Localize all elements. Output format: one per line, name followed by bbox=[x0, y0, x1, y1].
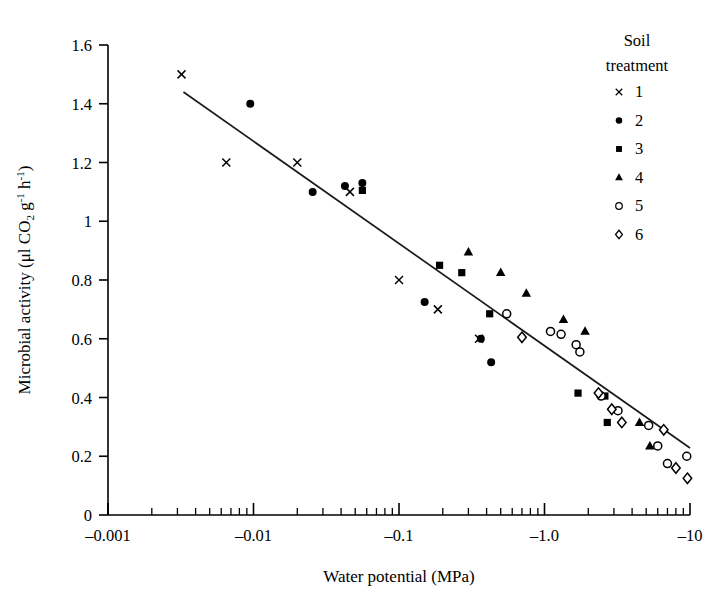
filled-square-icon bbox=[574, 389, 581, 396]
data-point-filled-square bbox=[574, 389, 581, 396]
data-point-filled-square bbox=[604, 419, 611, 426]
filled-square-icon bbox=[616, 146, 622, 152]
data-point-filled-circle bbox=[358, 179, 366, 187]
y-tick-label: 0.8 bbox=[71, 271, 92, 290]
data-point-filled-circle bbox=[616, 117, 623, 124]
data-point-open-circle bbox=[663, 460, 671, 468]
filled-circle-icon bbox=[358, 179, 366, 187]
data-point-filled-square bbox=[436, 262, 443, 269]
x-tick-label: –0.01 bbox=[234, 526, 272, 545]
scatter-plot-figure: 00.20.40.60.811.21.41.6 –0.001–0.01–0.1–… bbox=[0, 0, 718, 606]
data-point-filled-circle bbox=[477, 335, 485, 343]
x-tick-label: –0.1 bbox=[384, 526, 414, 545]
x-axis-title: Water potential (MPa) bbox=[323, 567, 475, 586]
legend-item-label: 1 bbox=[635, 82, 643, 101]
filled-square-icon bbox=[486, 310, 493, 317]
open-circle-icon bbox=[645, 421, 653, 429]
data-point-filled-circle bbox=[421, 298, 429, 306]
filled-circle-icon bbox=[309, 188, 317, 196]
open-circle-icon bbox=[616, 203, 623, 210]
data-point-filled-circle bbox=[309, 188, 317, 196]
open-circle-icon bbox=[663, 460, 671, 468]
data-point-open-circle bbox=[503, 310, 511, 318]
open-circle-icon bbox=[683, 452, 691, 460]
open-circle-icon bbox=[547, 327, 555, 335]
y-tick-label: 0 bbox=[84, 506, 92, 525]
y-tick-label: 0.4 bbox=[71, 389, 92, 408]
x-tick-label: –1.0 bbox=[529, 526, 559, 545]
y-axis-title-sup-g: -1 bbox=[14, 193, 26, 202]
y-tick-label: 0.2 bbox=[71, 447, 92, 466]
filled-circle-icon bbox=[246, 100, 254, 108]
y-axis-title-mid2: h bbox=[15, 180, 34, 193]
legend-item-label: 2 bbox=[635, 111, 643, 130]
filled-circle-icon bbox=[477, 335, 485, 343]
y-tick-label: 1.2 bbox=[71, 154, 92, 173]
y-tick-label: 1.6 bbox=[71, 36, 92, 55]
filled-circle-icon bbox=[616, 117, 623, 124]
data-point-open-circle bbox=[547, 327, 555, 335]
y-tick-label: 0.6 bbox=[71, 330, 92, 349]
y-axis-tick-labels: 00.20.40.60.811.21.41.6 bbox=[71, 36, 92, 525]
data-point-filled-circle bbox=[341, 182, 349, 190]
legend-item-label: 5 bbox=[635, 196, 643, 215]
filled-circle-icon bbox=[487, 358, 495, 366]
y-axis-title-mid: g bbox=[15, 202, 34, 215]
filled-square-icon bbox=[458, 269, 465, 276]
y-axis-title-sup-h: -1 bbox=[14, 171, 26, 180]
x-tick-label: –10 bbox=[677, 526, 703, 545]
data-point-filled-square bbox=[486, 310, 493, 317]
legend-title-line1: Soil bbox=[624, 31, 651, 50]
data-point-open-circle bbox=[557, 330, 565, 338]
legend-item-label: 4 bbox=[635, 168, 643, 187]
data-point-open-circle bbox=[683, 452, 691, 460]
filled-square-icon bbox=[604, 419, 611, 426]
open-circle-icon bbox=[503, 310, 511, 318]
data-point-open-circle bbox=[645, 421, 653, 429]
data-point-open-circle bbox=[616, 203, 623, 210]
legend-title-line2: treatment bbox=[606, 56, 669, 75]
legend-item-label: 3 bbox=[635, 139, 643, 158]
x-tick-label: –0.001 bbox=[84, 526, 130, 545]
data-point-filled-square bbox=[616, 146, 622, 152]
data-point-filled-square bbox=[458, 269, 465, 276]
open-circle-icon bbox=[557, 330, 565, 338]
data-point-filled-circle bbox=[246, 100, 254, 108]
legend-item-label: 6 bbox=[635, 225, 643, 244]
open-circle-icon bbox=[576, 348, 584, 356]
data-point-open-circle bbox=[576, 348, 584, 356]
y-tick-label: 1 bbox=[84, 212, 92, 231]
data-point-filled-circle bbox=[487, 358, 495, 366]
filled-circle-icon bbox=[341, 182, 349, 190]
filled-square-icon bbox=[436, 262, 443, 269]
filled-circle-icon bbox=[421, 298, 429, 306]
y-tick-label: 1.4 bbox=[71, 95, 92, 114]
data-point-open-circle bbox=[654, 442, 662, 450]
open-circle-icon bbox=[654, 442, 662, 450]
y-axis-title-close: ) bbox=[15, 166, 34, 172]
y-axis-title-main: Microbial activity (μl CO bbox=[15, 221, 34, 395]
data-point-filled-square bbox=[359, 187, 366, 194]
filled-square-icon bbox=[359, 187, 366, 194]
